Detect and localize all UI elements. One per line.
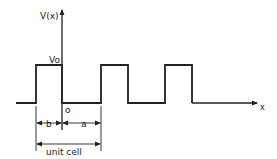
y-axis-label: V(x) bbox=[40, 11, 59, 21]
origin-label: o bbox=[65, 105, 71, 115]
diagram-canvas: V(x) x Vo o b a unit cell bbox=[0, 0, 277, 159]
barrier-width-label: b bbox=[46, 119, 52, 129]
unit-cell-label: unit cell bbox=[46, 147, 82, 157]
well-width-label: a bbox=[81, 119, 87, 129]
x-axis-label: x bbox=[260, 103, 265, 112]
barrier-height-label: Vo bbox=[49, 55, 60, 65]
kronig-penney-diagram: V(x) x Vo o b a unit cell bbox=[0, 0, 277, 159]
potential-profile-line bbox=[16, 65, 192, 103]
